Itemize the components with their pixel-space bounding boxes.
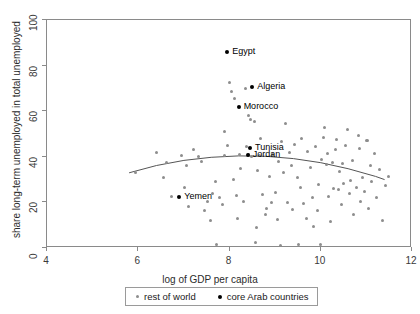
data-point-world [331,161,334,164]
data-point-world [235,194,238,197]
data-point-world [351,159,354,162]
x-tick-mark [46,247,47,251]
data-point-arab [237,105,241,109]
y-tick-mark [42,110,46,111]
y-tick-mark [42,201,46,202]
point-label-egypt: Egypt [232,47,255,56]
x-tick-label: 10 [300,255,340,266]
data-point-world [268,175,271,178]
plot-area: EgyptAlgeriaMoroccoTunisiaJordanYemen [46,19,411,247]
y-tick-label: 20 [28,202,39,213]
data-point-world [317,183,320,186]
legend-item-core-arab-countries: core Arab countries [196,291,309,302]
data-point-world [291,208,294,211]
data-point-world [326,152,329,155]
data-point-world [242,200,245,203]
y-tick-label: 100 [28,14,39,31]
data-point-world [200,160,203,163]
data-point-world [305,217,308,220]
data-point-world [342,182,345,185]
data-point-world [276,218,279,221]
data-point-world [288,151,291,154]
data-point-world [274,191,277,194]
y-tick-label: 60 [28,111,39,122]
data-point-world [203,209,206,212]
x-tick-label: 4 [26,255,66,266]
point-label-yemen: Yemen [184,192,212,201]
data-point-world [323,126,326,129]
x-tick-mark [320,247,321,251]
data-point-world [232,178,235,181]
data-point-world [378,168,381,171]
legend-label: rest of world [144,291,196,302]
data-point-world [357,134,360,137]
data-point-world [261,193,264,196]
x-tick-mark [411,247,412,251]
data-point-world [162,176,165,179]
data-point-arab [246,153,250,157]
data-point-world [249,118,252,121]
data-point-world [209,219,212,222]
data-point-world [170,195,173,198]
data-point-world [226,144,229,147]
x-tick-label: 8 [209,255,249,266]
data-point-world [322,136,325,139]
data-point-world [309,166,312,169]
data-point-world [384,184,387,187]
point-label-algeria: Algeria [257,82,285,91]
data-point-world [348,192,351,195]
y-tick-mark [42,65,46,66]
data-point-world [270,201,273,204]
data-point-world [367,207,370,210]
y-tick-label: 80 [28,65,39,76]
x-tick-label: 6 [117,255,157,266]
x-tick-mark [137,247,138,251]
x-tick-label: 12 [391,255,420,266]
data-point-world [299,186,302,189]
data-point-world [381,219,384,222]
data-point-world [340,203,343,206]
x-tick-mark [229,247,230,251]
data-point-world [223,130,226,133]
x-axis-label: log of GDP per capita [0,274,420,285]
data-point-world [316,209,319,212]
data-point-world [314,145,317,148]
legend-marker-gray-dot-icon [136,295,139,298]
data-point-arab [248,146,252,150]
y-tick-mark [42,156,46,157]
chart-legend: rest of world core Arab countries [125,287,318,306]
data-point-world [296,176,299,179]
data-point-world [134,171,137,174]
data-point-world [302,202,305,205]
point-label-jordan: Jordan [253,150,281,159]
legend-label: core Arab countries [227,291,309,302]
data-point-world [373,152,376,155]
data-point-world [284,122,287,125]
data-point-world [320,158,323,161]
scatter-chart: EgyptAlgeriaMoroccoTunisiaJordanYemen 02… [0,0,420,314]
legend-marker-black-dot-icon [218,295,222,299]
y-tick-mark [42,19,46,20]
y-axis-label: share long-term unemployed in total unem… [11,21,22,238]
data-point-world [244,87,247,90]
legend-item-rest-of-world: rest of world [126,291,196,302]
data-point-world [346,128,349,131]
y-tick-label: 40 [28,157,39,168]
data-point-world [355,186,358,189]
data-point-world [293,143,296,146]
point-label-morocco: Morocco [244,102,279,111]
data-point-world [363,190,366,193]
data-point-world [155,151,158,154]
data-point-world [387,175,390,178]
